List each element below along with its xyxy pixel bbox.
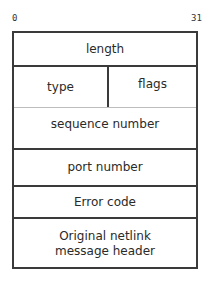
field-flags-label: flags [138,77,167,92]
field-original-header: Original netlink message header [14,217,196,269]
field-port-number-label: port number [67,160,142,175]
row-type-flags: type flags [14,65,196,107]
field-error-code-label: Error code [74,195,136,210]
field-length: length [14,33,196,65]
netlink-error-message-frame: length type flags sequence number port n… [12,31,198,269]
field-sequence-number-label: sequence number [51,117,159,132]
bit-label-end: 31 [191,13,202,23]
field-original-header-line2: message header [55,244,155,259]
field-length-label: length [86,42,124,57]
field-error-code: Error code [14,185,196,217]
field-port-number: port number [14,148,196,185]
field-type: type [14,67,109,107]
bit-label-start: 0 [12,13,17,23]
field-flags: flags [109,67,196,107]
field-sequence-number: sequence number [14,107,196,148]
field-original-header-line1: Original netlink [59,229,151,244]
field-type-label: type [47,80,74,95]
